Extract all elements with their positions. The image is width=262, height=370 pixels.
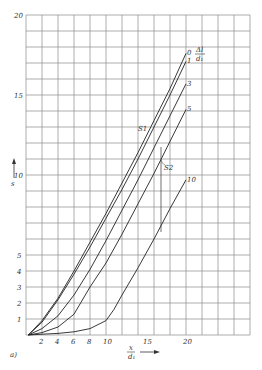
y-tick-label: 4 [16,268,21,276]
x-axis-label-den: d₁ [128,353,135,361]
y-tick-label: 1 [17,316,21,324]
curve-label-10: 10 [187,176,196,184]
x-tick-label: 8 [87,338,92,346]
curve-label-1: 1 [187,57,191,65]
y-tick-label: 3 [17,284,22,292]
curve-10 [28,180,186,335]
legend-title-num: Δl [195,46,203,54]
chart: 246810152012345101520sxd₁a) 013510 Δld₁S… [0,0,262,370]
annotation-s1: S1 [138,125,147,133]
annotation-s2: S2 [164,164,174,172]
grid [26,15,250,335]
y-tick-label: 15 [14,92,23,100]
legend-title-den: d₁ [196,55,203,63]
x-tick-label: 4 [54,338,59,346]
curve-0 [28,53,186,335]
y-tick-label: 20 [13,12,23,20]
y-tick-label: 5 [17,252,22,260]
curves: 013510 [28,49,196,335]
x-axis-label-num: x [129,344,133,352]
curve-label-3: 3 [187,80,192,88]
x-tick-label: 20 [182,338,192,346]
x-tick-label: 15 [143,338,152,346]
y-axis-label: s [11,180,15,188]
panel-label: a) [10,351,17,359]
y-tick-label: 10 [14,172,23,180]
x-tick-label: 10 [103,338,112,346]
curve-label-0: 0 [187,49,192,57]
curve-1 [28,61,186,335]
x-tick-label: 2 [38,338,44,346]
axis-ticks: 246810152012345101520sxd₁a) [10,12,192,361]
x-arrowhead-icon [154,350,160,354]
curve-label-5: 5 [187,105,192,113]
curve-3 [28,84,186,335]
x-tick-label: 6 [71,338,76,346]
y-tick-label: 2 [16,300,22,308]
y-arrowhead-icon [12,158,16,164]
